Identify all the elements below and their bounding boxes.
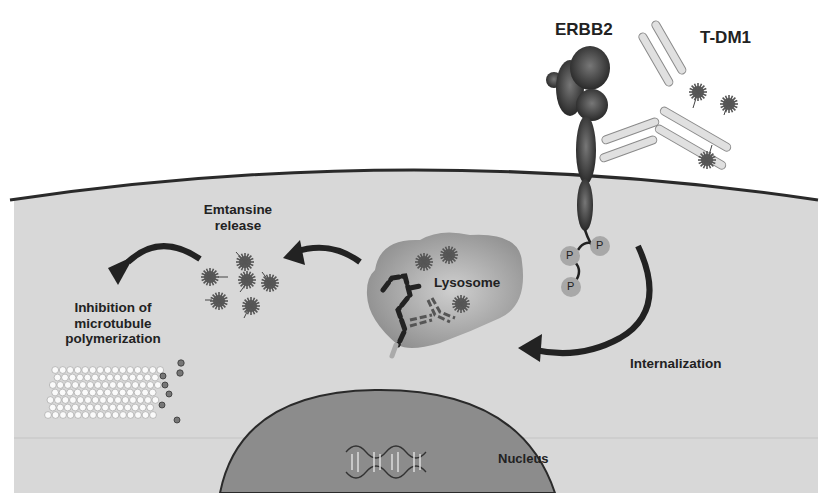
nucleus-label: Nucleus (498, 452, 549, 467)
lysosome-label: Lysosome (434, 275, 500, 291)
internalization-label: Internalization (630, 356, 722, 372)
tdm1-label: T-DM1 (700, 28, 751, 48)
phospho-label: P (596, 239, 603, 252)
diagram: ERBB2 T-DM1 Emtansine release Inhibition… (0, 0, 828, 493)
emtansine-release-label: Emtansine release (198, 202, 278, 233)
phospho-label: P (567, 280, 574, 293)
inhibition-label: Inhibition of microtubule polymerization (48, 300, 178, 347)
phospho-label: P (566, 249, 573, 262)
erbb2-label: ERBB2 (555, 20, 613, 40)
